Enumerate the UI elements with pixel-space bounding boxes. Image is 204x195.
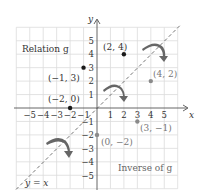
x-tick: −5 (23, 110, 36, 120)
point-label: (2, 4) (103, 42, 127, 52)
y-tick: −5 (81, 171, 94, 181)
point-label: (4, 2) (153, 69, 177, 79)
y-tick: 4 (89, 49, 94, 59)
point-neg2-0 (68, 106, 72, 110)
inverse-g-label: Inverse of g (118, 163, 172, 173)
y-tick: 3 (89, 63, 94, 73)
x-axis-label: x (189, 110, 194, 120)
point-label: (−1, 3) (48, 73, 80, 83)
x-tick-labels: −5 −4 −3 −2 −1 1 2 3 4 5 (23, 110, 166, 120)
point-label: (0, −2) (101, 137, 133, 147)
point-4-2 (149, 79, 153, 83)
line-equation-label: y = x (24, 178, 48, 188)
x-tick: −4 (37, 110, 50, 120)
y-tick: −3 (81, 144, 94, 154)
x-tick: 5 (162, 110, 167, 120)
x-tick: −2 (64, 110, 77, 120)
x-tick: 2 (121, 110, 126, 120)
point-0-neg2 (95, 133, 99, 137)
x-tick: 4 (148, 110, 153, 120)
point-neg1-3 (81, 65, 85, 69)
y-axis-label: y (87, 14, 94, 24)
x-tick: 3 (135, 110, 140, 120)
y-tick: 1 (89, 90, 94, 100)
x-tick: 1 (108, 110, 113, 120)
y-tick: −1 (81, 117, 94, 127)
coordinate-graph: y x −5 −4 −3 −2 −1 1 2 3 4 5 5 4 3 2 1 −… (0, 0, 204, 195)
point-label: (−2, 0) (48, 94, 80, 104)
x-tick: −3 (50, 110, 63, 120)
y-tick: −4 (81, 157, 94, 167)
y-tick: 5 (89, 36, 94, 46)
point-label: (3, −1) (140, 123, 172, 133)
relation-g-label: Relation g (22, 44, 69, 54)
point-2-4 (122, 52, 126, 56)
y-tick: 2 (89, 76, 94, 86)
point-3-neg1 (135, 119, 139, 123)
y-tick: −2 (81, 130, 94, 140)
